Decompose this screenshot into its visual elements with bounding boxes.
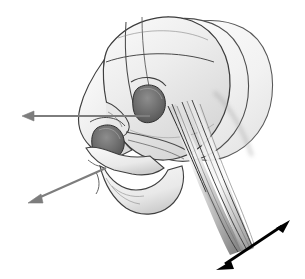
- figure-container: Skull rotation and neck musculature diag…: [0, 0, 305, 279]
- skull-diagram-svg: Skull rotation and neck musculature diag…: [0, 0, 305, 279]
